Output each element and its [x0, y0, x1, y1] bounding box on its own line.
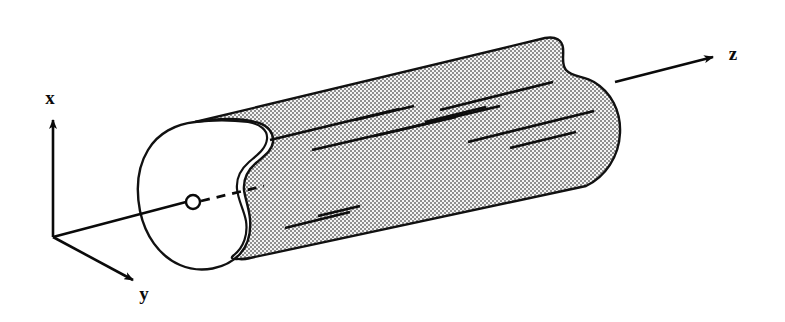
y-axis-line	[53, 237, 133, 280]
z-axis-line	[615, 57, 713, 82]
cylinder-axes-diagram: x y z	[0, 0, 785, 322]
cylinder-body-group	[138, 37, 620, 269]
figure-container: x y z	[0, 0, 785, 322]
z-axis-label: z	[729, 43, 738, 64]
y-axis-label: y	[139, 283, 149, 304]
axis-origin-circle	[186, 195, 200, 209]
x-axis-label: x	[45, 87, 55, 108]
